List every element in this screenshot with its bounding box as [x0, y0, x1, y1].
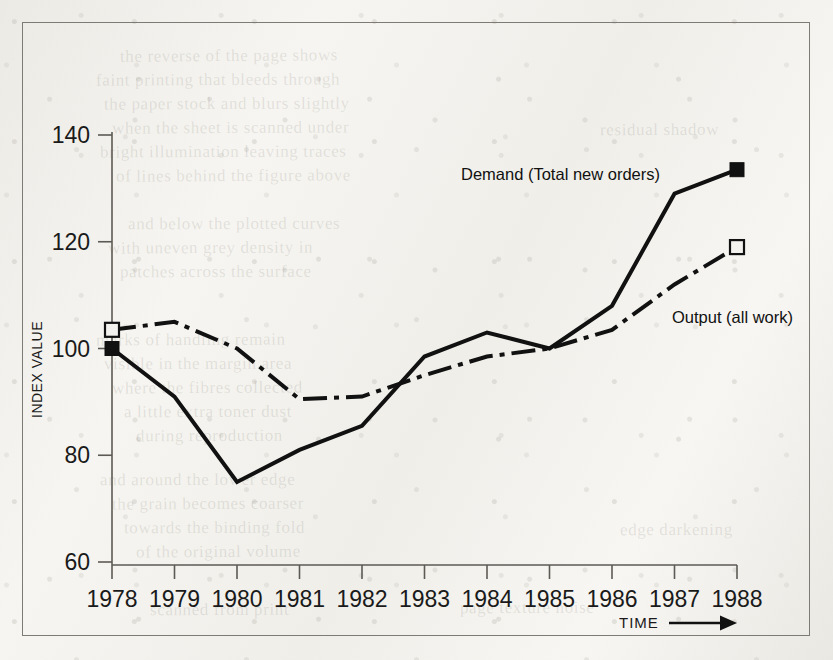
- axis-lines: [112, 132, 737, 565]
- data-marker-demand: [105, 342, 119, 356]
- figure-page: the reverse of the page showsfaint print…: [0, 0, 833, 660]
- x-tick-label: 1981: [274, 586, 325, 612]
- x-tick-label: 1980: [211, 586, 262, 612]
- x-tick-label: 1985: [524, 586, 575, 612]
- data-marker-output: [105, 323, 119, 337]
- data-marker-output: [730, 240, 744, 254]
- y-axis-ticks: 6080100120140: [52, 122, 112, 575]
- line-chart: 6080100120140 19781979198019811982198319…: [0, 0, 833, 660]
- y-tick-label: 60: [64, 549, 90, 575]
- x-tick-label: 1987: [649, 586, 700, 612]
- x-tick-label: 1978: [86, 586, 137, 612]
- series-label-output: Output (all work): [672, 308, 793, 326]
- y-tick-label: 80: [64, 442, 90, 468]
- data-marker-layer: [105, 163, 744, 356]
- y-tick-label: 100: [52, 336, 90, 362]
- x-tick-label: 1979: [149, 586, 200, 612]
- series-label-demand: Demand (Total new orders): [461, 165, 660, 183]
- series-line-output: [112, 247, 737, 399]
- series-line-demand: [112, 170, 737, 482]
- y-tick-label: 140: [52, 122, 90, 148]
- data-marker-demand: [730, 163, 744, 177]
- y-tick-label: 120: [52, 229, 90, 255]
- x-axis-title: TIME: [619, 614, 659, 631]
- right-arrow-icon: [669, 616, 737, 631]
- x-tick-label: 1988: [711, 586, 762, 612]
- x-tick-label: 1986: [586, 586, 637, 612]
- x-tick-label: 1984: [461, 586, 512, 612]
- x-tick-label: 1982: [336, 586, 387, 612]
- data-series-layer: [112, 170, 737, 482]
- x-axis-ticks: 1978197919801981198219831984198519861987…: [86, 565, 762, 612]
- y-axis-title: INDEX VALUE: [29, 321, 45, 418]
- x-tick-label: 1983: [399, 586, 450, 612]
